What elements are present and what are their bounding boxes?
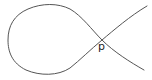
node-label: p <box>98 41 105 52</box>
curve-loop-and-branches <box>8 5 147 75</box>
curve-canvas <box>0 0 152 80</box>
nodal-curve-diagram: p <box>0 0 152 80</box>
